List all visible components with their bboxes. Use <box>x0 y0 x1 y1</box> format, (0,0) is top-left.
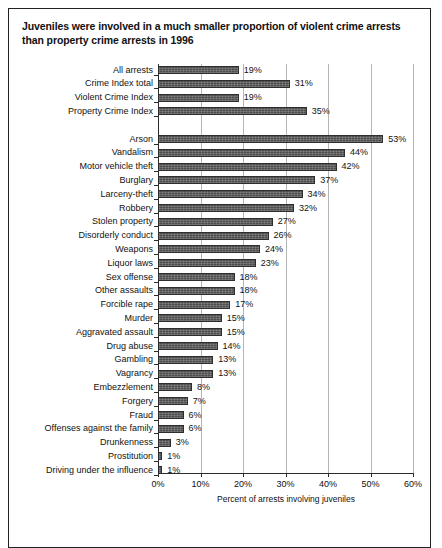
category-label: Other assaults <box>95 286 153 295</box>
bar-value-label: 42% <box>342 162 360 171</box>
y-tick-mark <box>154 185 158 186</box>
bar <box>158 397 188 405</box>
category-label: Vagrancy <box>116 369 153 378</box>
bar-value-label: 1% <box>167 452 180 461</box>
chart-title: Juveniles were involved in a much smalle… <box>22 20 422 47</box>
x-tick-label: 60% <box>404 479 422 489</box>
x-tick-mark <box>413 473 414 477</box>
y-tick-mark <box>154 337 158 338</box>
y-tick-mark <box>154 392 158 393</box>
category-label: Aggravated assault <box>76 328 153 337</box>
bar-value-label: 35% <box>312 107 330 116</box>
bar <box>158 273 235 281</box>
y-tick-mark <box>154 406 158 407</box>
gridline-40% <box>328 64 329 473</box>
gridline-20% <box>243 64 244 473</box>
y-tick-mark <box>154 240 158 241</box>
bar <box>158 94 239 102</box>
bar-value-label: 17% <box>235 300 253 309</box>
category-label: Violent Crime Index <box>75 93 153 102</box>
y-tick-mark <box>154 364 158 365</box>
y-tick-mark <box>154 199 158 200</box>
bar-value-label: 18% <box>240 273 258 282</box>
x-tick-label: 40% <box>319 479 337 489</box>
bar <box>158 328 222 336</box>
x-tick-label: 50% <box>361 479 379 489</box>
bar-value-label: 14% <box>223 342 241 351</box>
category-label: Arson <box>129 135 153 144</box>
bar-value-label: 13% <box>218 369 236 378</box>
category-label: Drunkenness <box>100 438 153 447</box>
y-tick-mark <box>154 420 158 421</box>
bar-value-label: 6% <box>189 411 202 420</box>
bar-value-label: 27% <box>278 217 296 226</box>
y-tick-mark <box>154 171 158 172</box>
y-tick-mark <box>154 351 158 352</box>
x-tick-label: 0% <box>151 479 164 489</box>
category-label: Gambling <box>114 355 153 364</box>
y-tick-mark <box>154 102 158 103</box>
x-tick-label: 10% <box>191 479 209 489</box>
y-tick-mark <box>154 447 158 448</box>
category-label: Liquor laws <box>107 259 153 268</box>
bar <box>158 439 171 447</box>
x-tick-mark <box>286 473 287 477</box>
bar <box>158 245 260 253</box>
category-label: Fraud <box>129 411 153 420</box>
category-label: Vandalism <box>112 148 153 157</box>
category-label: Property Crime Index <box>68 107 153 116</box>
bar-value-label: 7% <box>193 397 206 406</box>
bar-value-label: 31% <box>295 79 313 88</box>
bar <box>158 301 230 309</box>
bar-value-label: 15% <box>227 328 245 337</box>
category-label: Larceny-theft <box>100 190 153 199</box>
bar-value-label: 24% <box>265 245 283 254</box>
gridline-50% <box>371 64 372 473</box>
category-label: Disorderly conduct <box>78 231 153 240</box>
x-tick-mark <box>371 473 372 477</box>
y-tick-mark <box>154 75 158 76</box>
bar-value-label: 3% <box>176 438 189 447</box>
bar-value-label: 6% <box>189 424 202 433</box>
y-tick-mark <box>154 157 158 158</box>
bar <box>158 411 184 419</box>
y-tick-mark <box>154 309 158 310</box>
bar <box>158 190 303 198</box>
bar <box>158 107 307 115</box>
bar <box>158 425 184 433</box>
bar-value-label: 19% <box>244 93 262 102</box>
bar-value-label: 44% <box>350 148 368 157</box>
bar <box>158 314 222 322</box>
category-label: Sex offense <box>106 273 153 282</box>
category-label: Motor vehicle theft <box>79 162 153 171</box>
bar <box>158 149 345 157</box>
y-tick-mark <box>154 378 158 379</box>
bar <box>158 176 315 184</box>
y-tick-mark <box>154 226 158 227</box>
y-tick-mark <box>154 323 158 324</box>
category-label: Weapons <box>115 245 153 254</box>
bar <box>158 452 162 460</box>
gridline-60% <box>413 64 414 473</box>
x-tick-label: 30% <box>276 479 294 489</box>
bar <box>158 80 290 88</box>
y-tick-mark <box>154 213 158 214</box>
category-label: Robbery <box>119 204 153 213</box>
bar <box>158 204 294 212</box>
bar-value-label: 32% <box>299 204 317 213</box>
category-label: Forcible rape <box>100 300 153 309</box>
category-label: Embezzlement <box>93 383 153 392</box>
bar <box>158 383 192 391</box>
y-tick-mark <box>154 88 158 89</box>
category-label: All arrests <box>113 66 153 75</box>
bar-value-label: 23% <box>261 259 279 268</box>
bar-value-label: 53% <box>388 135 406 144</box>
bar-value-label: 13% <box>218 355 236 364</box>
bar <box>158 370 213 378</box>
y-tick-mark <box>154 461 158 462</box>
x-tick-mark <box>328 473 329 477</box>
bar <box>158 232 269 240</box>
y-tick-mark <box>154 433 158 434</box>
x-tick-mark <box>243 473 244 477</box>
